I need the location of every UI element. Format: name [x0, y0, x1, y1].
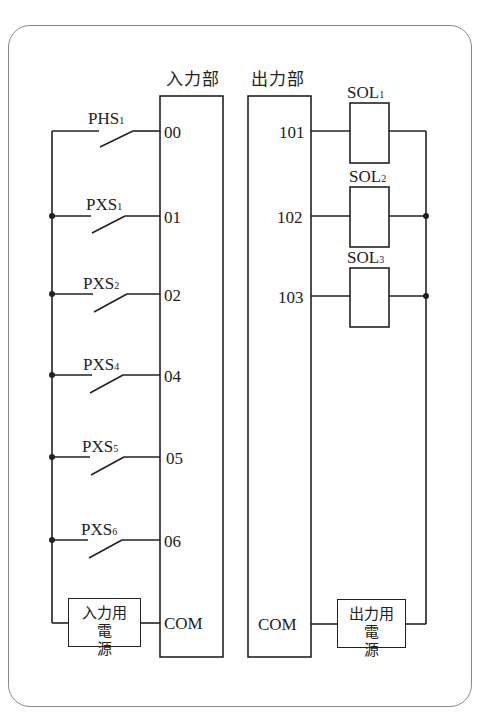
- switch-pxs2: [52, 294, 160, 312]
- switch-label-phs1: PHS1: [88, 110, 124, 127]
- solenoid-sol3: [311, 268, 426, 327]
- switch-label-pxs1: PXS1: [86, 196, 122, 213]
- output-power-supply: 出力用 電源: [337, 599, 406, 648]
- solenoid-sol2: [311, 187, 426, 247]
- switch-label-pxs2: PXS2: [83, 275, 119, 292]
- input-terminal-01: 01: [164, 209, 181, 226]
- input-terminal-00: 00: [164, 124, 181, 141]
- output-power-line2: 電源: [338, 623, 405, 659]
- output-unit-block: [248, 96, 311, 657]
- switch-label-pxs4: PXS4: [83, 356, 119, 373]
- switch-pxs6: [52, 540, 160, 558]
- solenoid-label-sol2: SOL2: [349, 168, 386, 185]
- solenoid-label-sol1: SOL1: [347, 84, 384, 101]
- switch-pxs4: [52, 375, 160, 393]
- input-power-line1: 入力用: [69, 604, 140, 622]
- input-terminal-06: 06: [164, 533, 181, 550]
- output-terminal-com: COM: [258, 616, 297, 633]
- output-terminal-102: 102: [277, 209, 303, 226]
- input-terminal-04: 04: [164, 368, 181, 385]
- solenoid-label-sol3: SOL3: [347, 249, 384, 266]
- switch-phs1: [52, 131, 160, 147]
- switch-label-pxs6: PXS6: [81, 521, 117, 538]
- input-terminal-02: 02: [164, 287, 181, 304]
- solenoid-sol1: [311, 103, 426, 163]
- switch-pxs5: [52, 457, 160, 475]
- input-terminal-05: 05: [166, 450, 183, 467]
- switch-label-pxs5: PXS5: [82, 438, 118, 455]
- switch-pxs1: [52, 216, 160, 233]
- input-unit-title: 入力部: [166, 71, 220, 88]
- input-terminal-com: COM: [164, 615, 203, 632]
- output-unit-title: 出力部: [251, 71, 305, 88]
- input-power-line2: 電源: [69, 622, 140, 658]
- output-terminal-103: 103: [278, 289, 304, 306]
- input-power-supply: 入力用 電源: [68, 598, 141, 647]
- output-power-line1: 出力用: [338, 605, 405, 623]
- output-terminal-101: 101: [279, 124, 305, 141]
